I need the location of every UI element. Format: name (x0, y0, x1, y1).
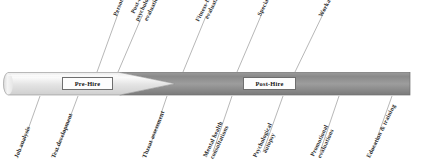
stage-box-pre-hire[interactable]: Pre-Hire (62, 77, 113, 90)
stage-label-pre-hire: Pre-Hire (75, 80, 101, 87)
stage-box-post-hire[interactable]: Post-Hire (243, 77, 296, 90)
stage-label-post-hire: Post-Hire (256, 80, 284, 87)
timeline-diagram: Pre-Hire Post-Hire Personality screening… (0, 0, 422, 163)
